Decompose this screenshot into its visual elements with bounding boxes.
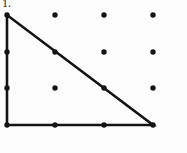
- grid-peg-r0-c0: [4, 12, 9, 17]
- grid-peg-r2-c1: [52, 85, 57, 90]
- right-triangle-outline: [7, 15, 153, 125]
- grid-peg-r1-c2: [101, 49, 106, 54]
- geoboard-canvas: [0, 0, 187, 153]
- grid-peg-r0-c3: [150, 12, 155, 17]
- grid-peg-r3-c1: [52, 122, 57, 127]
- grid-peg-r0-c2: [101, 12, 106, 17]
- grid-peg-r1-c3: [150, 49, 155, 54]
- grid-peg-r1-c0: [4, 49, 9, 54]
- grid-peg-r0-c1: [52, 12, 57, 17]
- grid-peg-r3-c3: [150, 122, 155, 127]
- grid-peg-r2-c3: [150, 85, 155, 90]
- triangle-shape: [7, 15, 153, 125]
- grid-peg-r3-c2: [101, 122, 106, 127]
- geoboard-figure: 1.: [0, 0, 187, 153]
- grid-peg-r2-c2: [101, 85, 106, 90]
- grid-peg-r2-c0: [4, 85, 9, 90]
- grid-peg-r1-c1: [52, 49, 57, 54]
- grid-peg-r3-c0: [4, 122, 9, 127]
